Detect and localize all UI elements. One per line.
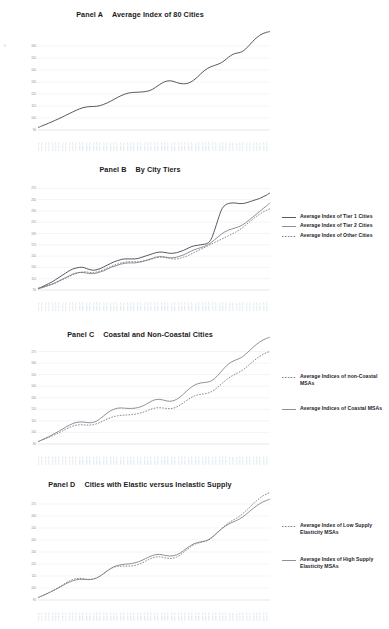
- panel-b-series-group: [38, 193, 270, 289]
- legend-item: Average Indices of non-Coastal MSAs: [282, 373, 389, 388]
- y-tick-label: 150: [31, 57, 36, 60]
- x-tick-label: 2008-10: [198, 291, 201, 311]
- y-tick-label: 90: [33, 599, 36, 602]
- panel-c-svg: [38, 340, 270, 444]
- series-line: [38, 499, 270, 597]
- y-tick-label: 160: [31, 515, 36, 518]
- legend-line-swatch-icon: [282, 234, 296, 239]
- panel-a-label: Panel A: [76, 10, 103, 19]
- y-tick-label: 130: [31, 266, 36, 269]
- panel-a-title: Panel AAverage Index of 80 Cities: [0, 10, 280, 19]
- panel-d-title-text: Cities with Elastic versus Inelastic Sup…: [84, 480, 231, 489]
- panel-b-x-tick-labels: 1997-011997-041997-071997-101998-011998-…: [38, 291, 270, 311]
- legend-item: Average Index of Other Cities: [282, 232, 373, 239]
- legend-label: Average Index of Tier 1 Cities: [300, 213, 373, 220]
- y-tick-label: 120: [31, 563, 36, 566]
- legend-label: Average Index of High Supply Elasticity …: [300, 556, 389, 571]
- y-tick-label: 270: [31, 187, 36, 190]
- y-tick-label: 110: [31, 277, 36, 280]
- x-tick-label: 2013-10: [266, 291, 269, 311]
- x-tick-label: 2000-10: [89, 445, 92, 465]
- panel-b-y-tick-labels: 90110130150170190210230250270: [16, 155, 36, 320]
- legend-line-swatch-icon: [282, 558, 296, 563]
- panel-c-series-group: [38, 337, 270, 441]
- panel-c-plot-area: [38, 340, 270, 444]
- legend-line-swatch-icon: [282, 524, 296, 529]
- y-tick-label: 90: [33, 443, 36, 446]
- y-tick-label: 140: [31, 69, 36, 72]
- panel-c-title-text: Coastal and Non-Coastal Cities: [103, 330, 213, 339]
- panel-a-plot-area: [38, 22, 270, 130]
- x-tick-label: 2008-10: [198, 131, 201, 151]
- y-tick-label: 160: [31, 45, 36, 48]
- series-line: [38, 492, 270, 597]
- y-tick-label: 100: [31, 431, 36, 434]
- panel-d-svg: [38, 492, 270, 600]
- y-tick-label: 170: [31, 350, 36, 353]
- legend-label: Average Index of Other Cities: [300, 232, 373, 239]
- x-tick-label: 2000-10: [89, 601, 92, 621]
- panel-b-plot-area: [38, 177, 270, 290]
- panel-b-legend: Average Index of Tier 1 CitiesAverage In…: [282, 213, 373, 241]
- panel-d-legend: Average Index of Low Supply Elasticity M…: [282, 522, 389, 590]
- y-tick-label: 130: [31, 396, 36, 399]
- panel-b-gridlines: [38, 188, 270, 290]
- x-tick-label: 2000-10: [89, 291, 92, 311]
- y-tick-label: 150: [31, 255, 36, 258]
- panel-d-title: Panel DCities with Elastic versus Inelas…: [0, 480, 280, 489]
- series-line: [38, 203, 270, 289]
- panel-c-legend: Average Indices of non-Coastal MSAsAvera…: [282, 373, 389, 429]
- series-line: [38, 209, 270, 289]
- panel-d-label: Panel D: [48, 480, 75, 489]
- y-tick-label: 170: [31, 503, 36, 506]
- series-line: [38, 351, 270, 441]
- figure-housing-price-index-panels: 0 Panel AAverage Index of 80 Cities 9010…: [0, 0, 389, 629]
- panel-c-y-tick-labels: 90100110120130140150160170: [16, 320, 36, 470]
- y-tick-label: 230: [31, 209, 36, 212]
- legend-item: Average Indices of Coastal MSAs: [282, 405, 389, 412]
- panel-d-y-tick-labels: 90100110120130140150160170: [16, 470, 36, 629]
- legend-label: Average Indices of Coastal MSAs: [300, 405, 382, 412]
- legend-label: Average Indices of non-Coastal MSAs: [300, 373, 389, 388]
- y-tick-label: 100: [31, 117, 36, 120]
- legend-line-swatch-icon: [282, 224, 296, 229]
- y-tick-label: 150: [31, 527, 36, 530]
- legend-item: Average Index of Tier 1 Cities: [282, 213, 373, 220]
- y-tick-label: 110: [31, 419, 36, 422]
- y-tick-label: 160: [31, 362, 36, 365]
- y-tick-label: 130: [31, 551, 36, 554]
- y-tick-label: 170: [31, 243, 36, 246]
- y-tick-label: 120: [31, 408, 36, 411]
- legend-label: Average Index of Low Supply Elasticity M…: [300, 522, 389, 537]
- y-tick-label: 110: [31, 105, 36, 108]
- panel-a-x-tick-labels: 1997-011997-041997-071997-101998-011998-…: [38, 131, 270, 151]
- legend-line-swatch-icon: [282, 407, 296, 412]
- y-tick-label: 250: [31, 198, 36, 201]
- y-tick-label: 140: [31, 539, 36, 542]
- legend-item: Average Index of Tier 2 Cities: [282, 222, 373, 229]
- panel-d-x-tick-labels: 1997-011997-041997-071997-101998-011998-…: [38, 601, 270, 621]
- panel-a-y-tick-labels: 90100110120130140150160: [16, 0, 36, 155]
- legend-label: Average Index of Tier 2 Cities: [300, 222, 373, 229]
- y-tick-label: 100: [31, 587, 36, 590]
- panel-d-series-group: [38, 492, 270, 597]
- panel-d-plot-area: [38, 492, 270, 600]
- panel-d-gridlines: [38, 504, 270, 600]
- panel-b-title: Panel BBy City Tiers: [0, 165, 280, 174]
- panel-c-title: Panel CCoastal and Non-Coastal Cities: [0, 330, 280, 339]
- x-tick-label: 2000-10: [89, 131, 92, 151]
- panel-a: Panel AAverage Index of 80 Cities 901001…: [0, 0, 389, 155]
- panel-b-title-text: By City Tiers: [135, 165, 180, 174]
- panel-c-gridlines: [38, 352, 270, 444]
- y-tick-label: 130: [31, 81, 36, 84]
- y-tick-label: 110: [31, 575, 36, 578]
- y-tick-label: 90: [33, 129, 36, 132]
- panel-c-x-tick-labels: 1997-011997-041997-071997-101998-011998-…: [38, 445, 270, 465]
- x-tick-label: 2013-10: [266, 131, 269, 151]
- x-tick-label: 2013-10: [266, 445, 269, 465]
- y-tick-label: 90: [33, 289, 36, 292]
- y-tick-label: 150: [31, 373, 36, 376]
- x-tick-label: 2008-10: [198, 445, 201, 465]
- legend-line-swatch-icon: [282, 215, 296, 220]
- panel-c-label: Panel C: [67, 330, 94, 339]
